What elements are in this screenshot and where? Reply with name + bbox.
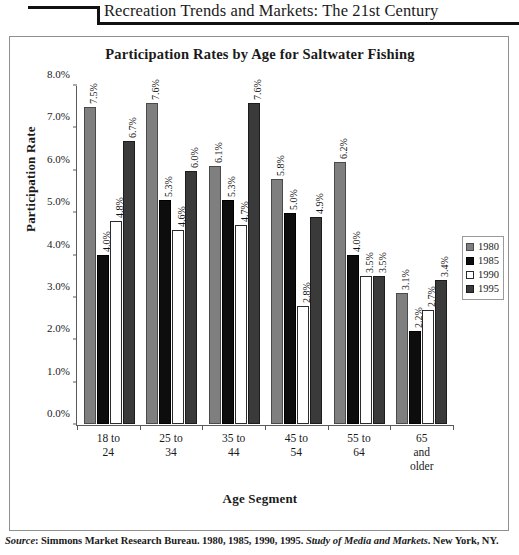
x-axis-tick-mark [328,425,329,430]
bar-value-label: 3.4% [440,257,450,278]
bar[interactable]: 4.9% [310,217,322,424]
x-axis-tick-mark [453,425,454,430]
legend-item-label: 1990 [478,270,499,281]
x-axis-category-label: 45 to54 [265,431,328,473]
bar[interactable]: 3.1% [396,293,408,424]
bar[interactable]: 7.6% [146,103,158,424]
x-axis-category-label: 25 to34 [140,431,203,473]
page-running-header: Recreation Trends and Markets: The 21st … [0,0,519,30]
y-axis-tick-label: 8.0% [47,68,77,80]
x-axis-category-labels: 18 to2425 to3435 to4445 to5455 to6465and… [77,431,453,473]
bar-value-label: 7.6% [151,79,161,100]
page-title: Recreation Trends and Markets: The 21st … [104,1,509,21]
chart-title: Participation Rates by Age for Saltwater… [10,46,510,63]
bar[interactable]: 5.8% [271,179,283,424]
header-rule-left [28,6,100,9]
bar-value-label: 5.3% [164,176,174,197]
bar[interactable]: 4.7% [235,225,247,424]
legend-item[interactable]: 1985 [466,254,499,268]
bar-group: 7.5%4.0%4.8%6.7% [78,86,141,424]
y-axis-tick-label: 4.0% [47,238,77,250]
bar-group: 6.1%5.3%4.7%7.6% [203,86,266,424]
legend-item-label: 1995 [478,284,499,295]
bar[interactable]: 5.3% [222,200,234,424]
chart-legend: 1980198519901995 [462,236,504,300]
source-label: Source [5,535,35,546]
y-axis-tick-label: 7.0% [47,110,77,122]
x-axis-tick-mark [77,425,78,430]
bar[interactable]: 7.6% [248,103,260,424]
bar-value-label: 5.8% [276,155,286,176]
y-axis-tick-label: 0.0% [47,407,77,419]
bar[interactable]: 5.0% [284,213,296,424]
x-axis-category-label: 55 to64 [328,431,391,473]
legend-item[interactable]: 1980 [466,240,499,254]
bar-groups: 7.5%4.0%4.8%6.7%7.6%5.3%4.6%6.0%6.1%5.3%… [78,86,453,424]
bar[interactable]: 3.5% [360,276,372,424]
legend-item[interactable]: 1995 [466,282,499,296]
bar-value-label: 4.9% [315,193,325,214]
x-axis-tick-mark [265,425,266,430]
y-axis-tick-mark [73,85,77,86]
bar[interactable]: 3.5% [373,276,385,424]
y-axis-tick-mark [73,381,77,382]
bar-group: 3.1%2.2%2.7%3.4% [391,86,454,424]
bar-value-label: 7.6% [253,79,263,100]
x-axis-tick-mark [390,425,391,430]
legend-item-label: 1980 [478,242,499,253]
legend-swatch-icon [466,243,474,251]
bar-value-label: 3.5% [365,252,375,273]
source-publication: Study of Media and Markets [306,535,428,546]
bar[interactable]: 4.6% [172,230,184,424]
bar-value-label: 4.0% [352,231,362,252]
bar-value-label: 5.0% [289,189,299,210]
y-axis-tick-mark [73,254,77,255]
x-axis-title: Age Segment [10,491,510,507]
source-body: Simmons Market Research Bureau. 1980, 19… [41,535,306,546]
bar-group: 7.6%5.3%4.6%6.0% [141,86,204,424]
y-axis-tick-label: 6.0% [47,153,77,165]
bar[interactable]: 2.8% [297,306,309,424]
bar-value-label: 5.3% [227,176,237,197]
x-axis-category-label: 35 to44 [202,431,265,473]
bar[interactable]: 6.1% [209,166,221,424]
bar[interactable]: 6.0% [185,171,197,425]
bar-group: 6.2%4.0%3.5%3.5% [328,86,391,424]
x-axis-category-label: 18 to24 [77,431,140,473]
y-axis-tick-mark [73,212,77,213]
bar[interactable]: 4.8% [110,221,122,424]
bar-value-label: 3.5% [378,252,388,273]
bar[interactable]: 6.7% [123,141,135,424]
y-axis-title: Participation Rate [23,126,39,232]
bar[interactable]: 2.7% [422,310,434,424]
bar-value-label: 6.7% [128,117,138,138]
y-axis-tick-mark [73,127,77,128]
header-rule-right [97,22,519,25]
x-axis-tick-mark [140,425,141,430]
y-axis-tick-label: 2.0% [47,322,77,334]
bar[interactable]: 4.0% [347,255,359,424]
bar[interactable]: 3.4% [435,280,447,424]
y-axis-tick-mark [73,296,77,297]
legend-item-label: 1985 [478,256,499,267]
bar[interactable]: 6.2% [334,162,346,424]
bar-value-label: 6.2% [339,138,349,159]
legend-item[interactable]: 1990 [466,268,499,282]
bar[interactable]: 4.0% [97,255,109,424]
y-axis-tick-label: 1.0% [47,365,77,377]
source-note: Source: Simmons Market Research Bureau. … [5,535,519,546]
x-axis-tick-mark [202,425,203,430]
x-axis-category-label: 65andolder [390,431,453,473]
plot-area: 0.0%1.0%2.0%3.0%4.0%5.0%6.0%7.0%8.0% 7.5… [76,86,453,426]
bar[interactable]: 5.3% [159,200,171,424]
bar-value-label: 6.0% [190,147,200,168]
chart-container: Participation Rates by Age for Saltwater… [9,36,509,531]
source-tail: . New York, NY. [428,535,499,546]
legend-swatch-icon [466,285,474,293]
bar-value-label: 7.5% [89,83,99,104]
bar-value-label: 3.1% [401,269,411,290]
bar[interactable]: 2.2% [409,331,421,424]
y-axis-tick-mark [73,339,77,340]
bar[interactable]: 7.5% [84,107,96,424]
y-axis-tick-mark [73,169,77,170]
